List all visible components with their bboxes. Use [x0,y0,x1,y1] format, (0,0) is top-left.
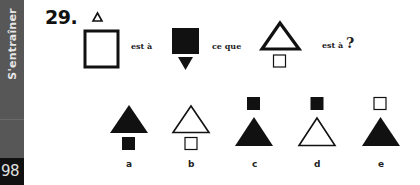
question-number: 29. [45,6,77,28]
black-triangle-icon [235,117,273,146]
sidebar-divider [0,119,24,120]
text-est-a-2: est à ? [322,35,354,51]
small-outline-triangle-icon [93,13,102,21]
text-est-a-2-label: est à [322,40,343,50]
black-square-icon [311,97,324,110]
page-number: 98 [1,162,19,180]
option-d-figure[interactable] [296,95,340,149]
outline-square-icon [374,98,386,110]
text-est-a-1: est à [131,41,152,51]
option-e-figure[interactable] [360,95,404,149]
black-triangle-icon [110,105,148,133]
option-a-label[interactable]: a [126,159,132,169]
small-outline-square-icon [274,55,286,67]
black-square-icon [172,28,199,54]
analogy-figure-3 [258,19,304,71]
question-mark: ? [346,35,354,51]
option-b-label[interactable]: b [188,159,194,169]
text-ce-que: ce que [212,41,241,51]
large-outline-square-icon [85,31,118,67]
analogy-figure-2 [170,26,202,74]
analogy-figure-1 [82,10,122,70]
option-c-figure[interactable] [233,95,277,149]
black-square-icon [247,97,260,110]
outline-triangle-icon [299,118,335,146]
section-label: S'entraîner [6,8,19,79]
black-down-triangle-icon [178,57,193,70]
option-a-figure[interactable] [108,103,152,153]
outline-square-icon [185,138,197,150]
option-b-figure[interactable] [170,103,214,153]
option-e-label[interactable]: e [378,159,384,169]
outline-triangle-icon [173,106,209,133]
black-triangle-icon [362,117,400,146]
option-c-label[interactable]: c [252,159,257,169]
black-square-icon [122,137,135,150]
large-outline-triangle-icon [262,23,299,49]
option-d-label[interactable]: d [314,159,320,169]
